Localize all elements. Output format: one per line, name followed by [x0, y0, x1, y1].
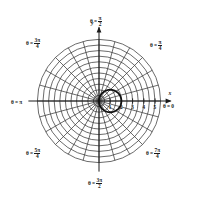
- angle-label-fraction: 3π4: [34, 38, 40, 50]
- angle-label-prefix: θ =: [88, 180, 95, 186]
- x-tick-label-3: 3: [131, 104, 134, 110]
- fraction-denominator: 2: [98, 21, 102, 28]
- angle-label-value: π: [19, 99, 22, 105]
- angle-label-fraction: 7π4: [154, 148, 160, 160]
- angle-label-theta-pi-4: θ = π4: [150, 40, 162, 52]
- x-tick-label-4: 4: [142, 104, 145, 110]
- angle-label-theta-5pi-4: θ = 5π4: [26, 148, 40, 160]
- fraction-denominator: 4: [154, 153, 160, 160]
- angle-label-fraction: 3π2: [96, 178, 102, 190]
- x-axis-label: x: [169, 90, 172, 96]
- polar-grid-svg: [0, 0, 200, 201]
- angle-label-prefix: θ =: [163, 103, 170, 109]
- angle-label-prefix: θ =: [26, 150, 33, 156]
- angle-label-value: 0: [171, 103, 174, 109]
- x-tick-label-2: 2: [120, 104, 123, 110]
- angle-label-theta-7pi-4: θ = 7π4: [146, 148, 160, 160]
- angle-label-theta-3pi-4: θ = 3π4: [26, 38, 40, 50]
- fraction-denominator: 4: [34, 43, 40, 50]
- fraction-denominator: 4: [158, 45, 162, 52]
- angle-label-fraction: π2: [98, 16, 102, 28]
- angle-label-prefix: θ =: [26, 40, 33, 46]
- fraction-denominator: 2: [96, 183, 102, 190]
- angle-label-theta-3pi-2: θ = 3π2: [88, 178, 102, 190]
- fraction-denominator: 4: [34, 153, 40, 160]
- x-tick-label-5: 5: [154, 104, 157, 110]
- angle-label-theta-pi: θ = π: [11, 100, 22, 105]
- y-axis-label: y: [91, 20, 93, 26]
- angle-label-prefix: θ =: [146, 150, 153, 156]
- angle-label-prefix: θ =: [11, 99, 18, 105]
- angle-label-theta-0: θ = 0: [163, 104, 174, 109]
- angle-label-prefix: θ =: [150, 42, 157, 48]
- angle-label-fraction: π4: [158, 40, 162, 52]
- polar-plot-figure: θ = 0θ = π4θ = π2θ = 3π4θ = πθ = 5π4θ = …: [0, 0, 200, 201]
- angle-label-fraction: 5π4: [34, 148, 40, 160]
- x-tick-label-1: 1: [109, 104, 112, 110]
